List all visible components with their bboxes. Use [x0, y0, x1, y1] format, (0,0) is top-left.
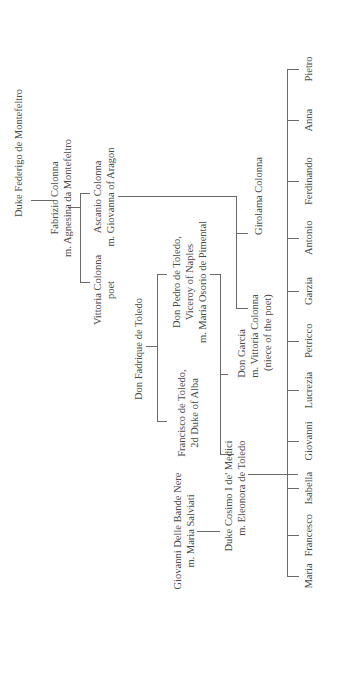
person-federigo-label: Duke Federigo de Montefeltro [12, 89, 25, 217]
person-fabrizio-label: Fabrizio Colonna m. Agnesina da Montefel… [48, 139, 74, 257]
connector-pedro-children [210, 274, 220, 275]
tick-child [287, 69, 299, 70]
tick-child [287, 120, 299, 121]
person-fadrique-label: Don Fadrique de Toledo [132, 298, 145, 400]
tick-garcia [220, 374, 228, 375]
tick-child [287, 341, 299, 342]
child-label: Antonio [302, 221, 315, 255]
tick-child [287, 488, 299, 489]
child-label: Francesco [302, 514, 315, 557]
tick-child [287, 441, 299, 442]
tick-girolama [236, 233, 248, 234]
tick-pedro [157, 274, 167, 275]
tick-vittoria-poet [80, 282, 90, 283]
tick-child [287, 181, 299, 182]
person-garcia-label: Don García m. Vittoria Colonna (niece of… [235, 294, 274, 377]
connector-giovanni-cosimo [197, 531, 220, 532]
child-label: Ferdinando [302, 157, 315, 205]
bracket-ascanio-children [236, 196, 237, 309]
child-label: Maria [302, 563, 315, 588]
child-label: Isabella [302, 472, 315, 505]
bracket-fabrizio-children [80, 193, 81, 282]
person-vittoria-poet-label: Vittoria Colonna poet [91, 255, 117, 325]
child-label: Garzia [302, 277, 315, 305]
child-label: Anna [302, 109, 315, 132]
tick-francisco [157, 421, 167, 422]
tick-child [287, 535, 299, 536]
tick-child [287, 390, 299, 391]
bracket-pedro-children [220, 274, 221, 454]
person-giovanni-bande-nere-label: Giovanni Delle Bande Nere m. Maria Salvi… [171, 473, 197, 590]
person-cosimo-label: Duke Cosimo I de' Medici m. Eleonora de … [222, 441, 248, 552]
person-pedro-label: Don Pedro de Toledo, Viceroy of Naples m… [170, 221, 209, 343]
bracket-fadrique-children [157, 274, 158, 421]
child-label: Giovanni [302, 421, 315, 460]
tick-child [287, 238, 299, 239]
tick-child [287, 576, 299, 577]
child-label: Pietro [302, 56, 315, 81]
connector-ascanio-children [118, 196, 236, 197]
tick-child [287, 291, 299, 292]
person-girolama-label: Girolama Colonna [252, 157, 265, 235]
child-label: Lucrezia [302, 372, 315, 409]
person-ascanio-label: Ascanio Colonna m. Giovanna of Aragon [91, 147, 117, 246]
bracket-medici-children [287, 69, 288, 576]
family-tree-diagram: Duke Federigo de Montefeltro Fabrizio Co… [0, 0, 340, 681]
connector-cosimo-children [248, 474, 298, 475]
tick-ascanio [80, 193, 90, 194]
person-francisco-label: Francisco de Toledo, 2d Duke of Alba [175, 369, 201, 456]
child-label: Petricco [302, 324, 315, 358]
